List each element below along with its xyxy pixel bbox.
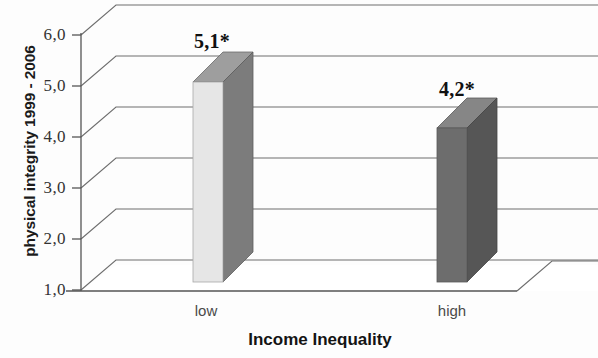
- bar-low-value-label: 5,1*: [152, 30, 272, 53]
- bar-low-side-face: [223, 52, 253, 282]
- x-category-label-high: high: [392, 302, 512, 319]
- y-tick-label-1: 1,0: [22, 280, 66, 300]
- y-axis-ticks: [72, 35, 81, 290]
- bar-low-front-face: [193, 82, 223, 282]
- y-tick-label-2: 2,0: [22, 229, 66, 249]
- gridline-2-5: [81, 209, 598, 239]
- x-axis-title: Income Inequality: [120, 330, 520, 350]
- gridline-5-5: [81, 56, 598, 86]
- bar-high[interactable]: [437, 98, 497, 282]
- bar-high-value-label: 4,2*: [397, 78, 517, 101]
- y-tick-label-3: 3,0: [22, 178, 66, 198]
- bar-chart: physical integrity 1999 - 2006 6,0 5,0 4…: [0, 0, 598, 358]
- axis-lines: [66, 33, 598, 291]
- y-tick-label-4: 4,0: [22, 127, 66, 147]
- bar-high-side-face: [467, 98, 497, 282]
- gridline-3-5: [81, 158, 598, 188]
- bar-high-front-face: [437, 128, 467, 282]
- floor-surface: [81, 265, 598, 291]
- y-tick-label-6: 6,0: [22, 25, 66, 45]
- x-category-label-low: low: [146, 302, 266, 319]
- gridline-4-5: [81, 107, 598, 137]
- y-axis-title: physical integrity 1999 - 2006: [17, 1, 43, 301]
- bar-low[interactable]: [193, 52, 253, 282]
- y-tick-label-5: 5,0: [22, 76, 66, 96]
- plot-area-floor: [81, 265, 598, 291]
